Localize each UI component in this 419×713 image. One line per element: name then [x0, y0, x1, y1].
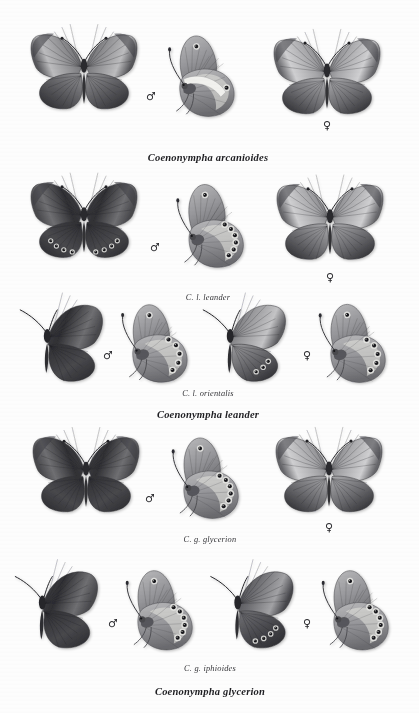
sex-symbol-male-glycerion-iphioides: ♂ [108, 618, 118, 629]
species-caption-glycerion-iphioides: Coenonympha glycerion [155, 686, 265, 697]
specimen-leander-orientalis-male-dorsal [29, 311, 103, 379]
specimen-arcanioides-male-dorsal [28, 34, 140, 116]
specimen-glycerion-nominate-female-dorsal [271, 435, 387, 521]
sex-symbol-male-glycerion-nominate: ♂ [145, 493, 155, 504]
specimen-leander-orientalis-male-ventral [124, 308, 186, 382]
species-caption-arcanioides: Coenonympha arcanioides [148, 152, 268, 163]
subspecies-caption-glycerion-iphioides: C. g. iphioides [184, 664, 236, 673]
specimen-glycerion-nominate-male-dorsal [30, 436, 142, 520]
sex-symbol-female-leander-nominate: ♀ [326, 272, 334, 283]
specimen-glycerion-iphioides-male-ventral [128, 572, 192, 652]
specimen-arcanioides-female-dorsal [268, 37, 386, 123]
specimen-plate: ♂♀Coenonympha arcanioides♂♀C. l. leander… [0, 0, 419, 713]
sex-symbol-female-leander-orientalis: ♀ [303, 350, 311, 361]
sex-symbol-female-glycerion-iphioides: ♀ [303, 618, 311, 629]
subspecies-caption-glycerion-nominate: C. g. glycerion [184, 535, 237, 544]
specimen-glycerion-iphioides-male-dorsal [23, 575, 101, 649]
sex-symbol-male-leander-nominate: ♂ [150, 242, 160, 253]
sex-symbol-male-leander-orientalis: ♂ [103, 350, 113, 361]
specimen-glycerion-iphioides-female-ventral [324, 572, 388, 652]
sex-symbol-female-glycerion-nominate: ♀ [325, 522, 333, 533]
specimen-leander-nominate-male-dorsal [25, 178, 143, 270]
specimen-glycerion-iphioides-female-dorsal [219, 575, 295, 649]
specimen-leander-orientalis-female-dorsal [213, 311, 283, 379]
species-caption-leander-orientalis: Coenonympha leander [157, 409, 259, 420]
subspecies-caption-leander-nominate: C. l. leander [186, 293, 230, 302]
specimen-leander-nominate-female-dorsal [269, 179, 391, 273]
sex-symbol-male-arcanioides: ♂ [146, 91, 156, 102]
subspecies-caption-leander-orientalis: C. l. orientalis [182, 389, 234, 398]
specimen-leander-orientalis-female-ventral [321, 307, 385, 383]
specimen-arcanioides-male-ventral [171, 36, 233, 120]
specimen-leander-nominate-male-ventral [178, 182, 244, 274]
specimen-glycerion-nominate-male-ventral [174, 438, 238, 522]
sex-symbol-female-arcanioides: ♀ [323, 120, 331, 131]
